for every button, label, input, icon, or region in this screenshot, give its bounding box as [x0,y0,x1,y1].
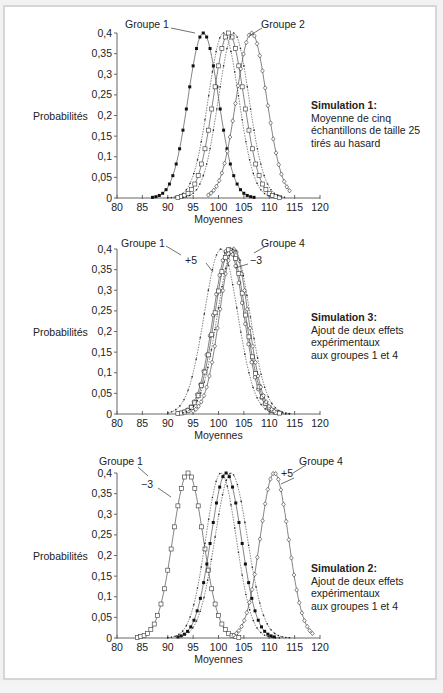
curve-label: −3 [250,254,262,266]
note-title: Simulation 1: [311,99,420,112]
curve-label: Groupe 2 [261,18,305,30]
y-tick-label: 0,3 [97,284,112,296]
x-tick-label: 90 [162,201,174,213]
note-title: Simulation 3: [311,311,404,324]
y-tick-label: 0,05 [92,171,113,183]
x-tick-label: 105 [235,417,253,429]
simulation-note: Simulation 2: Ajout de deux effets expér… [311,562,404,612]
y-tick-label: 0,1 [97,590,112,602]
x-tick-label: 115 [286,417,303,429]
y-tick-label: 0,05 [92,387,113,399]
leader-line [171,28,195,33]
simulation-note: Simulation 3: Ajout de deux effets expér… [311,311,404,361]
series-filled-square [151,32,256,199]
x-tick-label: 120 [311,417,329,429]
leader-line [254,246,266,253]
y-tick-label: 0,1 [97,366,112,378]
y-tick-label: 0,4 [97,467,112,479]
x-tick-label: 120 [311,641,329,653]
x-tick-label: 100 [210,201,228,213]
y-tick-label: 0,15 [92,570,113,582]
y-tick-label: 0,35 [92,487,113,499]
series-open-diamond [232,471,314,637]
note-line: aux groupes 1 et 4 [311,349,404,362]
page-strip [0,683,443,693]
x-tick-label: 90 [162,641,174,653]
series-open-diamond [191,247,276,414]
series-dot [167,248,290,414]
curve-label: Groupe 1 [121,237,165,249]
x-tick-label: 85 [137,417,149,429]
note-line: Ajout de deux effets [311,324,404,337]
x-tick-label: 100 [210,641,228,653]
y-axis-label: Probabilités [33,326,88,338]
series-open-square [176,31,282,199]
y-tick-label: 0,2 [97,109,112,121]
y-tick-label: 0,4 [97,243,112,255]
curve-label: Groupe 4 [261,237,305,249]
curve-label: Groupe 1 [99,455,143,467]
y-tick-label: 0,35 [92,47,113,59]
note-line: expérimentaux [311,587,404,600]
x-tick-label: 110 [261,201,278,213]
x-tick-label: 100 [210,417,228,429]
x-tick-label: 95 [187,417,199,429]
x-tick-label: 105 [235,201,253,213]
curve-label: Groupe 1 [125,18,169,30]
x-tick-label: 115 [286,201,303,213]
note-line: aux groupes 1 et 4 [311,600,404,613]
y-tick-label: 0,05 [92,611,113,623]
leader-line [166,246,181,255]
y-tick-label: 0,4 [97,27,112,39]
x-tick-label: 90 [162,417,174,429]
leader-line [138,467,148,476]
x-tick-label: 85 [137,201,149,213]
note-line: Ajout de deux effets [311,575,404,588]
note-title: Simulation 2: [311,562,404,575]
x-tick-label: 80 [111,641,123,653]
plot-area: 00,050,10,150,20,250,30,350,480859095100… [0,440,443,680]
chart-simulation-3: 00,050,10,150,20,250,30,350,480859095100… [0,216,443,441]
y-tick-label: 0,2 [97,325,112,337]
y-tick-label: 0,3 [97,508,112,520]
y-axis-label: Probabilités [33,550,88,562]
curve-label: +5 [185,254,197,266]
x-tick-label: 120 [311,201,329,213]
x-tick-label: 85 [137,641,149,653]
x-tick-label: 95 [187,641,199,653]
x-tick-label: 115 [286,641,303,653]
x-tick-label: 80 [111,201,123,213]
x-tick-label: 105 [235,641,253,653]
series-open-diamond [207,31,292,197]
x-tick-label: 80 [111,417,123,429]
chart-simulation-2: 00,050,10,150,20,250,30,350,480859095100… [0,440,443,680]
note-line: Moyenne de cinq [311,112,420,125]
curve-label: −3 [141,478,153,490]
y-tick-label: 0,25 [92,304,113,316]
y-tick-label: 0,1 [97,150,112,162]
y-tick-label: 0,15 [92,346,113,358]
x-tick-label: 110 [261,641,278,653]
y-tick-label: 0,25 [92,88,113,100]
series-dot [182,249,290,415]
simulation-note: Simulation 1: Moyenne de cinq échantillo… [311,99,420,149]
y-tick-label: 0,35 [92,263,113,275]
series-open-square [135,471,241,639]
curve-label: +5 [281,467,293,479]
y-tick-label: 0,15 [92,130,113,142]
x-axis-label: Moyennes [194,653,242,665]
note-line: expérimentaux [311,336,404,349]
series-dot [177,473,290,639]
y-tick-label: 0,3 [97,68,112,80]
leader-line [206,263,213,272]
note-line: tirés au hasard [311,137,420,150]
x-tick-label: 95 [187,201,199,213]
leader-line [158,488,171,497]
chart-simulation-1: 00,050,10,150,20,250,30,350,480859095100… [0,0,443,225]
y-axis-label: Probabilités [33,110,88,122]
x-tick-label: 110 [261,417,278,429]
note-line: échantillons de taille 25 [311,124,420,137]
y-tick-label: 0,25 [92,528,113,540]
y-tick-label: 0,2 [97,549,112,561]
